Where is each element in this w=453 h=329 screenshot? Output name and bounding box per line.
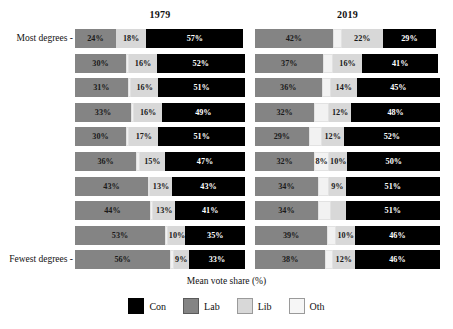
chart-row: Most degrees -24%18%57%42%22%29% (0, 28, 453, 53)
bar-2019: 36%14%45% (255, 78, 440, 97)
bar-segment-con: 29% (383, 29, 437, 48)
bar-segment-lib: 16% (333, 54, 363, 73)
bar-segment-con: 41% (362, 54, 438, 73)
bar-segment-oth (314, 103, 329, 122)
chart-row: 44%13%41%34%51% (0, 200, 453, 225)
bar-segment-oth (318, 177, 329, 196)
bar-segment-con: 51% (158, 127, 245, 146)
panel-title-1979: 1979 (75, 9, 245, 20)
bar-segment-con: 35% (185, 226, 245, 245)
bar-segment-oth (318, 201, 331, 220)
bar-segment-con: 46% (355, 226, 440, 245)
bar-segment-oth (325, 250, 332, 269)
bar-segment-lib: 12% (322, 127, 344, 146)
bar-segment-lab: 39% (255, 226, 327, 245)
bar-segment-lab: 36% (255, 78, 322, 97)
bar-segment-con: 43% (172, 177, 245, 196)
chart-row: 30%17%51%29%12%52% (0, 126, 453, 151)
bar-segment-lab: 32% (255, 103, 314, 122)
chart-row: 33%16%49%32%12%48% (0, 102, 453, 127)
bar-segment-lab: 43% (75, 177, 148, 196)
bar-segment-lab: 37% (255, 54, 323, 73)
bar-2019: 39%10%46% (255, 226, 440, 245)
legend-label-lib: Lib (258, 301, 272, 312)
bar-segment-lib (331, 201, 346, 220)
bar-segment-lab: 53% (75, 226, 165, 245)
bar-segment-lab: 38% (255, 250, 325, 269)
bar-segment-oth: 8% (314, 152, 329, 171)
y-tick-fewest-degrees: Fewest degrees - (0, 250, 73, 269)
legend-label-con: Con (149, 301, 166, 312)
bar-segment-con: 46% (355, 250, 440, 269)
chart-row: 43%13%43%34%9%51% (0, 176, 453, 201)
bar-1979: 31%16%51% (75, 78, 245, 97)
chart-row: 36%15%47%32%8%10%50% (0, 151, 453, 176)
bar-segment-lib: 22% (342, 29, 383, 48)
bar-2019: 37%16%41% (255, 54, 440, 73)
legend-item-oth[interactable]: Oth (289, 298, 325, 314)
bar-1979: 36%15%47% (75, 152, 245, 171)
bar-segment-con: 33% (189, 250, 245, 269)
bar-segment-lib: 10% (168, 226, 185, 245)
bar-segment-con: 51% (346, 201, 440, 220)
bar-2019: 29%12%52% (255, 127, 440, 146)
bar-segment-lib: 18% (116, 29, 147, 48)
bar-1979: 44%13%41% (75, 201, 245, 220)
legend-item-con[interactable]: Con (128, 298, 166, 314)
bar-segment-oth (327, 226, 336, 245)
chart-row: 30%16%52%37%16%41% (0, 53, 453, 78)
panel-title-2019: 2019 (255, 9, 440, 20)
bar-segment-lab: 30% (75, 54, 126, 73)
bar-segment-con: 51% (346, 177, 440, 196)
bar-segment-con: 52% (157, 54, 245, 73)
legend-label-lab: Lab (204, 301, 220, 312)
bar-1979: 24%18%57% (75, 29, 245, 48)
bar-1979: 30%17%51% (75, 127, 245, 146)
legend-item-lib[interactable]: Lib (237, 298, 272, 314)
bar-segment-lab: 34% (255, 177, 318, 196)
bar-segment-lib: 9% (329, 177, 346, 196)
chart-row: 31%16%51%36%14%45% (0, 77, 453, 102)
bar-2019: 34%51% (255, 201, 440, 220)
bar-segment-lab: 33% (75, 103, 131, 122)
bar-segment-lab: 30% (75, 127, 126, 146)
bar-segment-lib: 16% (134, 103, 161, 122)
bar-segment-lib: 17% (129, 127, 158, 146)
chart-row: 53%10%35%39%10%46% (0, 225, 453, 250)
bar-2019: 38%12%46% (255, 250, 440, 269)
bar-2019: 32%12%48% (255, 103, 440, 122)
bar-segment-oth (309, 127, 322, 146)
bar-2019: 34%9%51% (255, 177, 440, 196)
bar-1979: 43%13%43% (75, 177, 245, 196)
bar-segment-lab: 24% (75, 29, 116, 48)
bar-2019: 32%8%10%50% (255, 152, 440, 171)
bar-1979: 30%16%52% (75, 54, 245, 73)
stacked-bar-chart: 1979 2019 Most degrees -24%18%57%42%22%2… (0, 0, 453, 329)
bar-segment-lab: 36% (75, 152, 136, 171)
bar-segment-lab: 29% (255, 127, 309, 146)
bar-segment-lab: 56% (75, 250, 170, 269)
legend-item-lab[interactable]: Lab (183, 298, 220, 314)
bar-segment-oth (323, 54, 332, 73)
bar-segment-con: 57% (146, 29, 243, 48)
chart-legend: ConLabLibOth (0, 298, 453, 314)
legend-swatch-lib-icon (237, 298, 253, 314)
bar-segment-oth (333, 29, 342, 48)
bar-segment-con: 41% (175, 201, 245, 220)
bar-segment-lab: 32% (255, 152, 314, 171)
bar-segment-con: 50% (347, 152, 440, 171)
legend-swatch-con-icon (128, 298, 144, 314)
bar-segment-lab: 31% (75, 78, 128, 97)
y-tick-most-degrees: Most degrees - (0, 29, 73, 48)
bar-segment-lib: 9% (174, 250, 189, 269)
bar-segment-lab: 34% (255, 201, 318, 220)
bar-segment-lib: 12% (333, 250, 355, 269)
legend-swatch-lab-icon (183, 298, 199, 314)
bar-segment-lib: 16% (131, 78, 158, 97)
x-axis-label: Mean vote share (%) (0, 276, 453, 286)
chart-row: Fewest degrees -56%9%33%38%12%46% (0, 249, 453, 274)
bar-1979: 53%10%35% (75, 226, 245, 245)
bar-segment-con: 51% (158, 78, 245, 97)
bar-segment-lib: 13% (150, 177, 172, 196)
bar-segment-lib: 12% (329, 103, 351, 122)
